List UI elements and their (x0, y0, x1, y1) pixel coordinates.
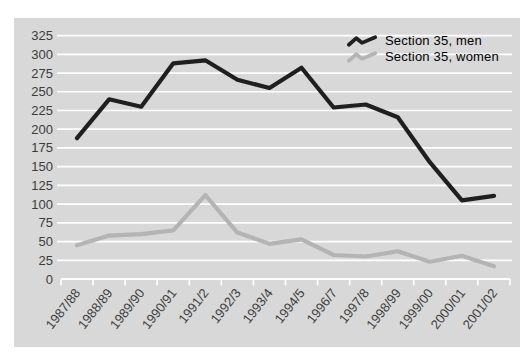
y-axis-tick-label: 175 (31, 140, 53, 155)
x-axis-tick-label: 2001/02 (460, 286, 501, 332)
x-axis-tick-label: 1996/7 (304, 286, 340, 327)
legend-item-women: Section 35, women (347, 49, 499, 64)
y-axis-tick-label: 0 (46, 272, 53, 287)
y-axis-tick-label: 250 (31, 84, 53, 99)
legend-item-men: Section 35, men (347, 33, 499, 48)
y-axis-tick-label: 75 (39, 215, 53, 230)
y-axis-tick-label: 100 (31, 197, 53, 212)
y-axis-tick-label: 50 (39, 234, 53, 249)
x-axis-tick-label: 1991/2 (175, 286, 211, 327)
y-axis-tick-label: 150 (31, 159, 53, 174)
x-axis-tick-label: 1993/4 (240, 286, 276, 327)
series-line-women (77, 195, 494, 266)
x-axis-tick-label: 1994/5 (272, 286, 308, 327)
women-line-sample-icon (347, 50, 377, 64)
y-axis-tick-label: 25 (39, 253, 53, 268)
y-axis-tick-label: 300 (31, 47, 53, 62)
x-axis-tick-label: 1990/91 (139, 286, 180, 332)
legend-label-men: Section 35, men (385, 33, 482, 48)
series-line-men (77, 60, 494, 200)
x-axis-tick-label: 1992/3 (207, 286, 243, 327)
legend-label-women: Section 35, women (385, 49, 499, 64)
legend: Section 35, men Section 35, women (347, 33, 499, 64)
y-axis-tick-label: 225 (31, 103, 53, 118)
y-axis-tick-label: 200 (31, 122, 53, 137)
y-axis-tick-label: 325 (31, 28, 53, 43)
men-line-sample-icon (347, 34, 377, 48)
y-axis-tick-label: 275 (31, 66, 53, 81)
y-axis-tick-label: 125 (31, 178, 53, 193)
